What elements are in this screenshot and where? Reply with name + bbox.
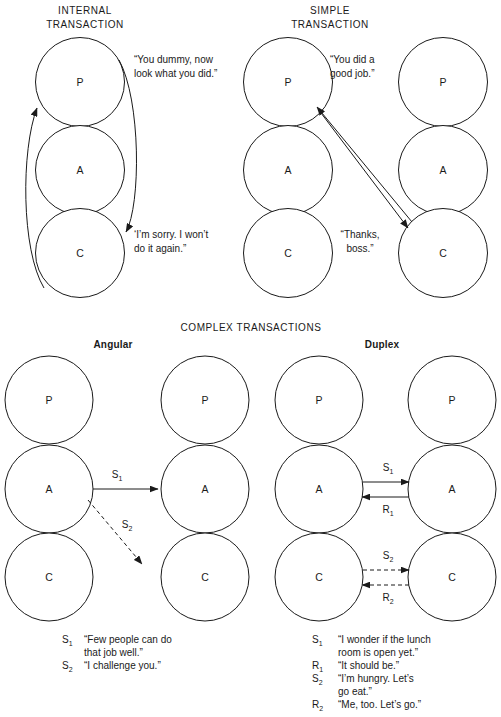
duplex-legend-text-3-line1: “Me, too. Let’s go.”	[338, 699, 421, 710]
angular-subtitle: Angular	[93, 339, 132, 350]
internal-parent-label: P	[76, 76, 83, 88]
duplex-legend-key-2: S2	[312, 673, 323, 686]
simple-stimulus-quote-line2: good job.”	[330, 68, 374, 79]
angular-subsection: Angular P A C P A C S1 S2 S1 “Few people…	[5, 339, 249, 673]
angular-left-child-label: C	[45, 571, 53, 583]
simple-left-parent-label: P	[284, 76, 291, 88]
duplex-legend-text-2-line2: go eat.”	[338, 686, 372, 697]
duplex-legend-text-2-line1: “I’m hungry. Let’s	[338, 673, 414, 684]
duplex-legend-key-3: R2	[312, 699, 323, 712]
duplex-legend-text-0-line2: room is open yet.”	[338, 647, 418, 658]
angular-legend-text-0-line2: that job well.”	[84, 647, 143, 658]
duplex-r1-label: R1	[382, 504, 393, 517]
simple-left-adult-label: A	[284, 164, 291, 176]
internal-child-quote-line1: ‘I’m sorry. I won’t	[134, 229, 208, 240]
transactional-analysis-diagram: INTERNAL TRANSACTION P A C “You dummy, n…	[0, 0, 501, 717]
simple-transaction-section: SIMPLE TRANSACTION P A C P A C “You did …	[244, 5, 488, 298]
angular-left-parent-label: P	[45, 394, 52, 406]
internal-transaction-section: INTERNAL TRANSACTION P A C “You dummy, n…	[26, 5, 218, 298]
simple-response-quote-line1: “Thanks,	[341, 229, 380, 240]
simple-response-quote-line2: boss.”	[346, 243, 373, 254]
internal-parent-quote-line2: look what you did.”	[134, 68, 217, 79]
internal-title-line2: TRANSACTION	[46, 19, 124, 30]
duplex-legend-text-0-line1: “I wonder if the lunch	[338, 634, 431, 645]
duplex-left-adult-label: A	[315, 483, 322, 495]
simple-stimulus-quote-line1: “You did a	[330, 54, 375, 65]
angular-left-adult-label: A	[45, 483, 52, 495]
duplex-right-adult-label: A	[448, 483, 455, 495]
diagram-page: INTERNAL TRANSACTION P A C “You dummy, n…	[0, 0, 501, 717]
angular-legend-text-1-line1: “I challenge you.”	[84, 660, 161, 671]
internal-adult-label: A	[76, 164, 83, 176]
internal-title-line1: INTERNAL	[58, 5, 112, 16]
duplex-legend-text-1-line1: “It should be.”	[338, 660, 399, 671]
angular-right-parent-label: P	[201, 394, 208, 406]
internal-parent-quote-line1: “You dummy, now	[134, 54, 214, 65]
duplex-r2-label: R2	[382, 592, 393, 605]
simple-stimulus-arrow	[321, 113, 408, 228]
duplex-right-parent-label: P	[448, 394, 455, 406]
angular-s2-arrow	[88, 500, 142, 564]
angular-right-adult-label: A	[201, 483, 208, 495]
simple-right-child-label: C	[439, 247, 447, 259]
angular-legend-key-0: S1	[62, 634, 73, 647]
simple-right-adult-label: A	[439, 164, 446, 176]
duplex-subtitle: Duplex	[365, 339, 400, 350]
duplex-s1-label: S1	[383, 462, 394, 475]
angular-s1-label: S1	[112, 469, 123, 482]
duplex-right-child-label: C	[448, 571, 456, 583]
complex-transactions-title: COMPLEX TRANSACTIONS	[181, 322, 322, 333]
internal-child-label: C	[76, 247, 84, 259]
duplex-left-parent-label: P	[315, 394, 322, 406]
duplex-subsection: Duplex P A C P A C S1 R1 S2 R2	[275, 339, 496, 712]
simple-title-line1: SIMPLE	[310, 5, 350, 16]
simple-left-child-label: C	[284, 247, 292, 259]
duplex-s2-label: S2	[383, 550, 394, 563]
internal-child-quote-line2: do it again.”	[134, 243, 186, 254]
duplex-left-child-label: C	[315, 571, 323, 583]
simple-title-line2: TRANSACTION	[291, 19, 369, 30]
simple-right-parent-label: P	[439, 76, 446, 88]
angular-s2-label: S2	[122, 519, 133, 532]
angular-right-child-label: C	[201, 571, 209, 583]
duplex-legend-key-1: R1	[312, 660, 323, 673]
angular-legend-key-1: S2	[62, 660, 73, 673]
duplex-legend-key-0: S1	[312, 634, 323, 647]
angular-legend-text-0-line1: “Few people can do	[84, 634, 172, 645]
